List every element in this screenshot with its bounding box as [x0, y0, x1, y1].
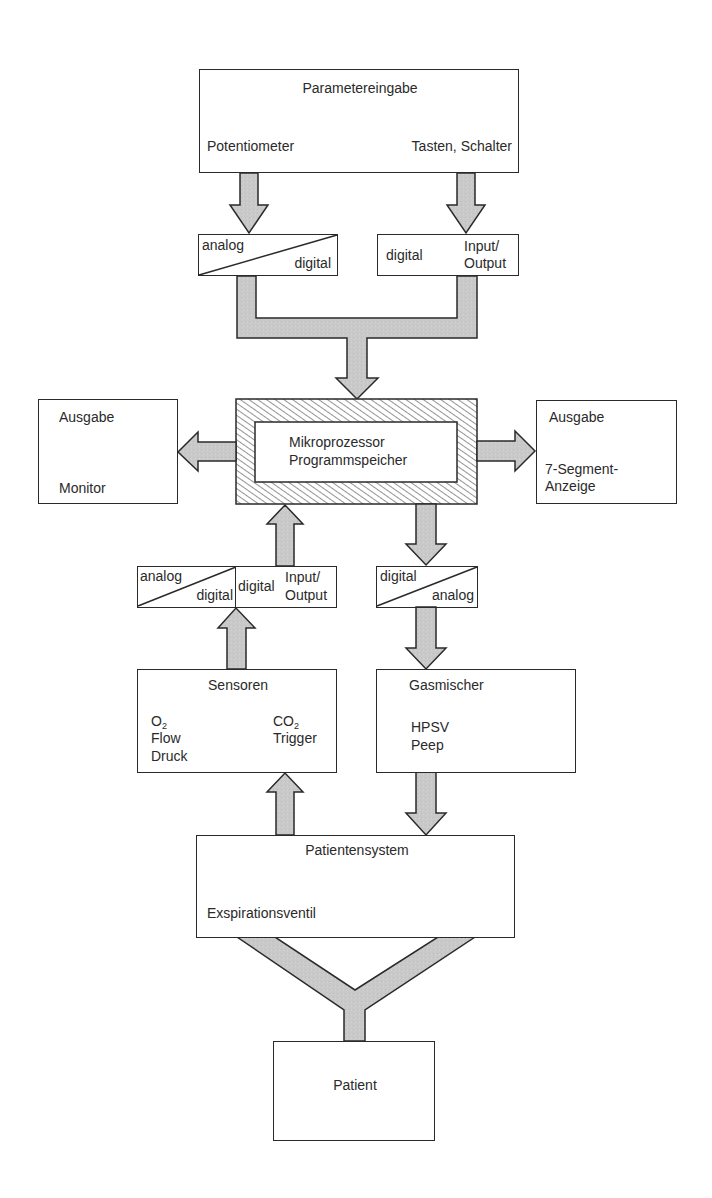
sensor-druck: Druck	[151, 748, 188, 765]
parametereingabe-box: Parametereingabe Potentiometer Tasten, S…	[199, 69, 519, 173]
patientensystem-title: Patientensystem	[305, 842, 409, 859]
io-top-input: Input/	[464, 238, 499, 255]
y-connector-to-patient	[237, 937, 475, 1041]
sensoren-box: Sensoren O2 Flow Druck CO2 Trigger	[137, 669, 337, 773]
sensor-o2: O2	[151, 713, 167, 730]
arrow-mikroprozessor-to-da	[406, 504, 446, 565]
ad-top-digital: digital	[294, 255, 331, 272]
ad-converter-top: analog digital	[198, 234, 338, 276]
da-digital: digital	[380, 568, 417, 585]
sensoren-title: Sensoren	[208, 677, 268, 694]
mikroprozessor-label: Mikroprozessor	[289, 434, 385, 451]
arrow-to-monitor	[178, 432, 236, 471]
tasten-schalter-label: Tasten, Schalter	[412, 138, 512, 155]
arrow-gasmischer-to-patientensystem	[406, 772, 446, 835]
io-bottom-input: Input/	[285, 569, 320, 586]
ausgabe-7segment-title: Ausgabe	[549, 409, 604, 426]
gasmischer-box: Gasmischer HPSV Peep	[376, 669, 576, 773]
da-analog: analog	[432, 587, 474, 604]
ausgabe-monitor-title: Ausgabe	[59, 409, 114, 426]
programmspeicher-label: Programmspeicher	[289, 452, 407, 469]
io-bottom: digital Input/ Output	[235, 566, 337, 608]
ausgabe-7segment-box: Ausgabe 7-Segment- Anzeige	[536, 400, 677, 504]
io-bottom-digital: digital	[238, 578, 275, 595]
7segment-label-line1: 7-Segment-	[545, 461, 618, 478]
parametereingabe-title: Parametereingabe	[302, 80, 417, 97]
io-bottom-output: Output	[285, 587, 327, 604]
io-top-digital: digital	[386, 247, 423, 264]
sensor-co2: CO2	[273, 713, 299, 730]
arrow-tasten-to-io	[447, 173, 485, 233]
potentiometer-label: Potentiometer	[207, 138, 294, 155]
patient-box: Patient	[273, 1041, 435, 1141]
io-top: digital Input/ Output	[377, 234, 519, 276]
7segment-label-line2: Anzeige	[545, 478, 596, 495]
arrow-patientensystem-to-sensoren	[267, 773, 303, 835]
arrow-da-to-gasmischer	[406, 607, 446, 669]
sensor-trigger: Trigger	[273, 730, 317, 747]
diagram-canvas	[0, 0, 712, 1198]
sensor-flow: Flow	[151, 730, 181, 747]
patient-title: Patient	[333, 1077, 377, 1094]
patientensystem-box: Patientensystem Exspirationsventil	[196, 835, 515, 938]
da-converter: digital analog	[376, 566, 478, 608]
arrow-to-7segment	[477, 431, 535, 471]
arrow-merge-to-mikroprozessor	[237, 276, 477, 399]
arrow-io-to-mikroprozessor	[267, 505, 303, 566]
gasmischer-hpsv: HPSV	[411, 719, 449, 736]
io-top-output: Output	[464, 255, 506, 272]
gasmischer-title: Gasmischer	[409, 677, 484, 694]
arrow-sensoren-to-ad	[218, 608, 255, 669]
ausgabe-monitor-box: Ausgabe Monitor	[38, 399, 178, 504]
gasmischer-peep: Peep	[411, 737, 444, 754]
exspirationsventil-label: Exspirationsventil	[207, 905, 316, 922]
ad-converter-bottom: analog digital	[137, 566, 237, 608]
ad-bottom-digital: digital	[196, 587, 233, 604]
ad-bottom-analog: analog	[140, 568, 182, 585]
arrow-potentiometer-to-ad	[230, 173, 268, 233]
ad-top-analog: analog	[202, 237, 244, 254]
monitor-label: Monitor	[59, 480, 106, 497]
